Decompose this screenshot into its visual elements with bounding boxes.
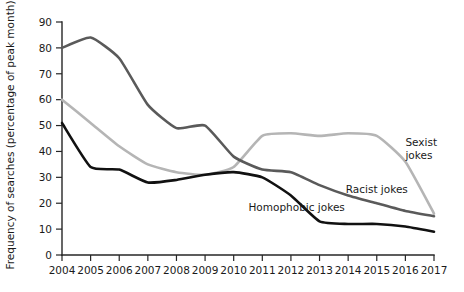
x-tick-label: 2015 [363, 264, 390, 276]
series-annotation-homophobic-jokes: Homophobic jokes [248, 201, 344, 213]
y-tick-label: 20 [39, 197, 52, 209]
x-tick-label: 2013 [306, 264, 333, 276]
y-axis-title-text: Frequency of searches (percentage of pea… [4, 0, 16, 269]
y-tick-label: 70 [39, 68, 52, 80]
series-labels: SexistjokesRacist jokesHomophobic jokes [248, 136, 437, 213]
x-tick-label: 2010 [220, 264, 247, 276]
x-tick-label: 2009 [192, 264, 219, 276]
chart-container: Frequency of searches (percentage of pea… [0, 0, 464, 292]
y-tick-label: 10 [39, 223, 52, 235]
y-tick-label: 60 [39, 93, 52, 105]
y-tick-label: 90 [39, 16, 52, 28]
x-tick-label: 2007 [134, 264, 161, 276]
x-tick-label: 2014 [335, 264, 362, 276]
y-tick-label: 30 [39, 171, 52, 183]
x-tick-label: 2006 [106, 264, 133, 276]
y-tick-label: 40 [39, 145, 52, 157]
x-axis-ticks: 2004200520062007200820092010201120122013… [49, 255, 448, 276]
y-axis-title: Frequency of searches (percentage of pea… [4, 0, 16, 269]
series-annotation-racist-jokes: Racist jokes [346, 183, 408, 195]
y-axis-ticks: 0102030405060708090 [39, 16, 62, 261]
x-tick-label: 2005 [77, 264, 104, 276]
series-annotation-sexist-jokes: Sexistjokes [404, 136, 437, 161]
y-tick-label: 50 [39, 119, 52, 131]
x-tick-label: 2008 [163, 264, 190, 276]
x-tick-label: 2011 [249, 264, 276, 276]
y-tick-label: 80 [39, 42, 52, 54]
series-line-sexist-jokes [62, 100, 434, 214]
x-tick-label: 2004 [49, 264, 76, 276]
y-tick-label: 0 [45, 249, 52, 261]
x-tick-label: 2012 [278, 264, 305, 276]
series-line-homophobic-jokes [62, 123, 434, 232]
x-tick-label: 2016 [392, 264, 419, 276]
x-tick-label: 2017 [421, 264, 448, 276]
line-chart: Frequency of searches (percentage of pea… [0, 0, 464, 292]
